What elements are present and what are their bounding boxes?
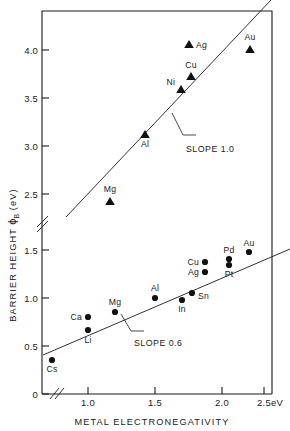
slope-lower-label: SLOPE 0.6 <box>134 338 183 348</box>
data-point-cs: Cs <box>47 357 58 374</box>
x-tick-label: 2.5 <box>257 397 271 408</box>
data-point-pd: Pd <box>224 245 235 262</box>
point-label: Ag <box>196 40 207 50</box>
x-unit-label: eV <box>271 397 283 408</box>
point-label: Ni <box>166 77 175 87</box>
y-axis-title-prefix: BARRIER HEIGHT <box>8 228 18 321</box>
data-point-ni-upper: Ni <box>166 77 185 93</box>
y-axis-title-suffix: (eV) <box>8 188 18 210</box>
x-axis-ticks <box>88 387 264 394</box>
point-label: Pd <box>224 245 235 255</box>
point-label: Ca <box>71 312 82 322</box>
slope-upper-label: SLOPE 1.0 <box>186 144 235 154</box>
slope-upper-annotation: SLOPE 1.0 <box>172 113 235 154</box>
data-point-mg-upper: Mg <box>104 184 116 205</box>
y-tick-label: 3.5 <box>24 93 38 104</box>
point-label: Cu <box>188 257 199 267</box>
data-point-au-upper: Au <box>245 32 256 53</box>
data-point-cu-upper: Cu <box>185 60 196 80</box>
data-point-ag-upper: Ag <box>184 40 207 50</box>
y-tick-label: 0 <box>33 389 38 400</box>
point-label: Cs <box>47 364 58 374</box>
point-label: Sn <box>198 291 209 301</box>
data-point-cu-lower: Cu <box>188 257 208 267</box>
data-point-sn: Sn <box>189 290 209 301</box>
point-label: Cu <box>185 60 196 70</box>
x-tick-label: 2.0 <box>215 397 229 408</box>
y-axis-ticks <box>42 50 49 394</box>
series-upper-branch: Mg Al Ni Cu Ag Au <box>104 32 256 205</box>
point-label: Al <box>141 139 149 149</box>
chart-figure: 4.0 3.5 3.0 2.5 1.5 1.0 0.5 0 1.0 1.5 2.… <box>0 0 290 431</box>
data-point-li: Li <box>84 327 91 345</box>
data-point-al-lower: Al <box>151 283 159 301</box>
plot-frame <box>42 11 272 394</box>
x-tick-labels: 1.0 1.5 2.0 2.5 eV <box>81 397 283 408</box>
point-label: Mg <box>104 184 116 194</box>
point-label: Au <box>244 238 255 248</box>
y-tick-label: 1.0 <box>24 293 38 304</box>
point-label: Li <box>84 335 91 345</box>
x-tick-label: 1.0 <box>81 397 95 408</box>
y-tick-label: 4.0 <box>24 45 38 56</box>
data-point-ca: Ca <box>71 312 91 322</box>
point-label: Ag <box>188 267 199 277</box>
point-label: Mg <box>109 297 121 307</box>
point-label: In <box>178 304 186 314</box>
data-point-in: In <box>178 297 186 314</box>
data-point-au-lower: Au <box>244 238 255 255</box>
series-lower-branch: Cs Li Ca Mg Al In Sn Ag <box>47 238 255 374</box>
y-tick-labels: 4.0 3.5 3.0 2.5 1.5 1.0 0.5 0 <box>24 45 38 400</box>
data-point-pt: Pt <box>225 262 234 279</box>
point-label: Au <box>245 32 256 42</box>
data-point-ag-lower: Ag <box>188 267 208 277</box>
slope-lower-annotation: SLOPE 0.6 <box>121 314 183 348</box>
y-tick-label: 3.0 <box>24 141 38 152</box>
data-point-mg-lower: Mg <box>109 297 121 315</box>
data-point-al-upper: Al <box>140 130 150 149</box>
point-label: Al <box>151 283 159 293</box>
y-tick-label: 0.5 <box>24 341 38 352</box>
svg-text:BARRIER HEIGHT ϕB (eV): BARRIER HEIGHT ϕB (eV) <box>6 188 20 321</box>
y-tick-label: 1.5 <box>24 245 38 256</box>
point-label: Pt <box>225 269 234 279</box>
y-axis-title: BARRIER HEIGHT ϕB (eV) <box>6 188 20 321</box>
y-tick-label: 2.5 <box>24 189 38 200</box>
x-tick-label: 1.5 <box>148 397 162 408</box>
x-axis-title: METAL ELECTRONEGATIVITY <box>75 417 230 427</box>
